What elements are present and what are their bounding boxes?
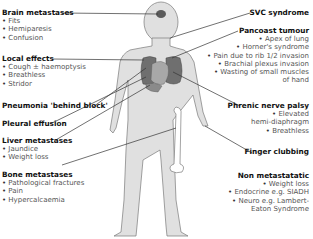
finger-clubbing-title: Finger clubbing [245,148,309,156]
symptom-item: Horner's syndrome [207,43,309,51]
svc-syndrome-group: SVC syndrome [250,9,309,17]
heart [151,61,169,84]
brain-metastases-group: Brain metastases Fits Hemiparesis Confus… [2,9,74,42]
symptom-continuation: of hand [207,76,309,84]
symptom-item: Stridor [2,80,86,88]
symptom-item: Weight loss [228,180,309,188]
symptom-item: Hemiparesis [2,25,74,33]
liver-metastases-group: Liver metastases Jaundice Weight loss [2,137,72,162]
symptom-item: Endocrine e.g. SIADH [228,188,309,196]
symptom-continuation: hemi-diaphragm [228,118,309,126]
symptom-item: Fits [2,17,74,25]
symptom-item: Pain due to rib 1/2 invasion [207,52,309,60]
pancoast-tumour-group: Pancoast tumour Apex of lung Horner's sy… [207,27,309,84]
phrenic-nerve-palsy-group: Phrenic nerve palsy Elevated hemi-diaphr… [228,102,309,135]
non-metastatic-group: Non metastatatic Weight loss Endocrine e… [228,172,309,213]
symptom-item: Apex of lung [207,35,309,43]
pleural-effusion-title: Pleural effusion [2,120,67,128]
finger-clubbing-group: Finger clubbing [245,148,309,156]
symptom-item: Breathless [228,127,309,135]
symptom-item: Hypercalcaemia [2,196,84,204]
symptom-item: Weight loss [2,153,72,161]
symptom-item: Elevated [228,110,309,118]
symptom-item: Pathological fractures [2,179,84,187]
symptom-continuation: Eaton Syndrome [228,205,309,213]
bone-metastases-title: Bone metastases [2,171,84,179]
symptom-item: Cough ± haemoptysis [2,63,86,71]
brain-metastases-title: Brain metastases [2,9,74,17]
bone-metastases-group: Bone metastases Pathological fractures P… [2,171,84,204]
symptom-item: Neuro e.g. Lambert- [228,197,309,205]
symptom-item: Confusion [2,34,74,42]
symptom-item: Breathless [2,71,86,79]
pancoast-tumour-title: Pancoast tumour [207,27,309,35]
local-effects-title: Local effects [2,55,86,63]
pneumonia-group: Pneumonia 'behind block' [2,102,108,110]
phrenic-nerve-palsy-title: Phrenic nerve palsy [228,102,309,110]
body-silhouette [110,2,208,236]
local-effects-group: Local effects Cough ± haemoptysis Breath… [2,55,86,88]
symptom-item: Pain [2,187,84,195]
liver-metastases-title: Liver metastases [2,137,72,145]
svc-syndrome-title: SVC syndrome [250,9,309,17]
pneumonia-title: Pneumonia 'behind block' [2,102,108,110]
pleural-effusion-group: Pleural effusion [2,120,67,128]
symptom-item: Jaundice [2,145,72,153]
symptom-item: Brachial plexus invasion [207,60,309,68]
symptom-item: Wasting of small muscles [207,68,309,76]
non-metastatic-title: Non metastatatic [228,172,309,180]
